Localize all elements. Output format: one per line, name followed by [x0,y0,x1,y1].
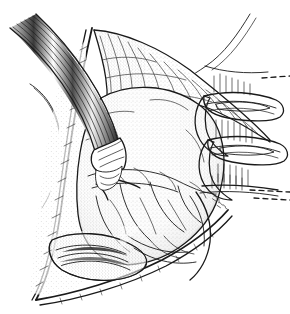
illustration-canvas: Surgical exposure line illustration [0,0,290,314]
surgical-illustration [0,0,290,314]
